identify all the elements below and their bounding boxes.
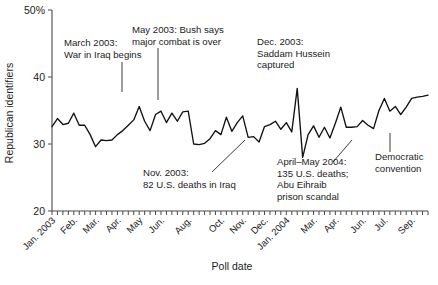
chart-figure: 20304050% Jan. 2003Feb.Mar.Apr.MayJun.Au… bbox=[0, 0, 438, 285]
annotation-april-may-2004: April–May 2004:135 U.S. deaths;Abu Eihra… bbox=[277, 140, 352, 202]
plot-area bbox=[52, 88, 428, 157]
republican-identifiers-line-chart: 20304050% Jan. 2003Feb.Mar.Apr.MayJun.Au… bbox=[0, 0, 438, 285]
x-axis-tick-label: Nov. bbox=[227, 215, 248, 236]
annotation-text-line: May 2003: Bush says bbox=[132, 24, 224, 35]
x-axis-tick-label: Jan. 2003 bbox=[20, 215, 57, 252]
annotation-text-line: Abu Eihraib bbox=[277, 179, 327, 190]
y-axis-tick-label: 50% bbox=[24, 4, 45, 16]
y-axis: 20304050% bbox=[24, 4, 52, 217]
annotation-text-line: War in Iraq begins bbox=[64, 49, 142, 60]
y-axis-tick-label: 20 bbox=[33, 205, 45, 217]
x-axis-title: Poll date bbox=[212, 260, 253, 272]
annotation-march-2003: March 2003:War in Iraq begins bbox=[64, 37, 142, 92]
x-axis-tick-label: Jul. bbox=[372, 215, 390, 233]
annotation-text: May 2003: Bush saysmajor combat is over bbox=[132, 24, 224, 47]
annotation-text: April–May 2004:135 U.S. deaths;Abu Eihra… bbox=[277, 156, 348, 202]
annotation-nov-2003: Nov. 2003:82 U.S. deaths in Iraq bbox=[143, 140, 245, 190]
annotation-text: Democraticconvention bbox=[375, 151, 424, 174]
annotation-text-line: Democratic bbox=[375, 151, 424, 162]
x-axis-tick-label: Apr. bbox=[103, 215, 123, 235]
y-axis-title: Republican identifiers bbox=[3, 63, 15, 163]
annotations-layer: March 2003:War in Iraq beginsMay 2003: B… bbox=[64, 24, 424, 202]
x-axis: Jan. 2003Feb.Mar.Apr.MayJun.Aug.Oct.Nov.… bbox=[20, 211, 428, 252]
annotation-dec-2003: Dec. 2003:Saddam Husseincaptured bbox=[257, 36, 330, 70]
annotation-text: Nov. 2003:82 U.S. deaths in Iraq bbox=[143, 167, 236, 190]
annotation-text-line: April–May 2004: bbox=[277, 156, 346, 167]
annotation-text-line: prison scandal bbox=[277, 191, 339, 202]
annotation-text-line: Dec. 2003: bbox=[257, 36, 303, 47]
x-axis-tick-label: Sep. bbox=[395, 215, 417, 237]
annotation-text-line: captured bbox=[257, 59, 294, 70]
annotation-text-line: 135 U.S. deaths; bbox=[277, 168, 348, 179]
annotation-text: March 2003:War in Iraq begins bbox=[64, 37, 142, 60]
x-axis-tick-label: Jun. bbox=[146, 215, 166, 235]
annotation-democratic-convention: Democraticconvention bbox=[375, 133, 424, 174]
data-series-line bbox=[52, 88, 428, 157]
annotation-text-line: Saddam Hussein bbox=[257, 48, 330, 59]
x-axis-tick-label: Mar. bbox=[298, 215, 319, 236]
annotation-text-line: 82 U.S. deaths in Iraq bbox=[143, 179, 236, 190]
annotation-text: Dec. 2003:Saddam Husseincaptured bbox=[257, 36, 330, 70]
annotation-text-line: March 2003: bbox=[64, 37, 117, 48]
y-axis-tick-label: 30 bbox=[33, 138, 45, 150]
x-axis-tick-label: Feb. bbox=[58, 215, 79, 236]
annotation-text-line: convention bbox=[375, 163, 421, 174]
x-axis-tick-label: Apr. bbox=[321, 215, 341, 235]
x-axis-tick-label: Oct. bbox=[206, 215, 226, 235]
x-axis-tick-label: Jun. bbox=[348, 215, 368, 235]
x-axis-tick-label: Mar. bbox=[80, 215, 101, 236]
annotation-text-line: major combat is over bbox=[132, 36, 222, 47]
annotation-text-line: Nov. 2003: bbox=[143, 167, 189, 178]
x-axis-tick-label: Aug. bbox=[172, 215, 194, 237]
annotation-may-2003: May 2003: Bush saysmajor combat is over bbox=[132, 24, 224, 100]
annotation-leader-line bbox=[212, 140, 245, 172]
x-axis-tick-label: May bbox=[124, 214, 145, 235]
y-axis-tick-label: 40 bbox=[33, 71, 45, 83]
